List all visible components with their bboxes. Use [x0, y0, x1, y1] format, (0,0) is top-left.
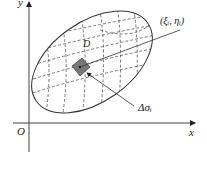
region-label: D — [83, 39, 90, 49]
point-leader-line — [80, 30, 180, 67]
region-boundary — [13, 0, 170, 134]
subregion-label: Δσᵢ — [138, 102, 152, 113]
x-axis-label: x — [189, 127, 194, 138]
origin-label: O — [17, 126, 25, 137]
point-label: (ξᵢ, ηᵢ) — [160, 16, 184, 26]
y-axis-label: y — [18, 0, 23, 8]
subregion-arrow — [87, 73, 134, 106]
